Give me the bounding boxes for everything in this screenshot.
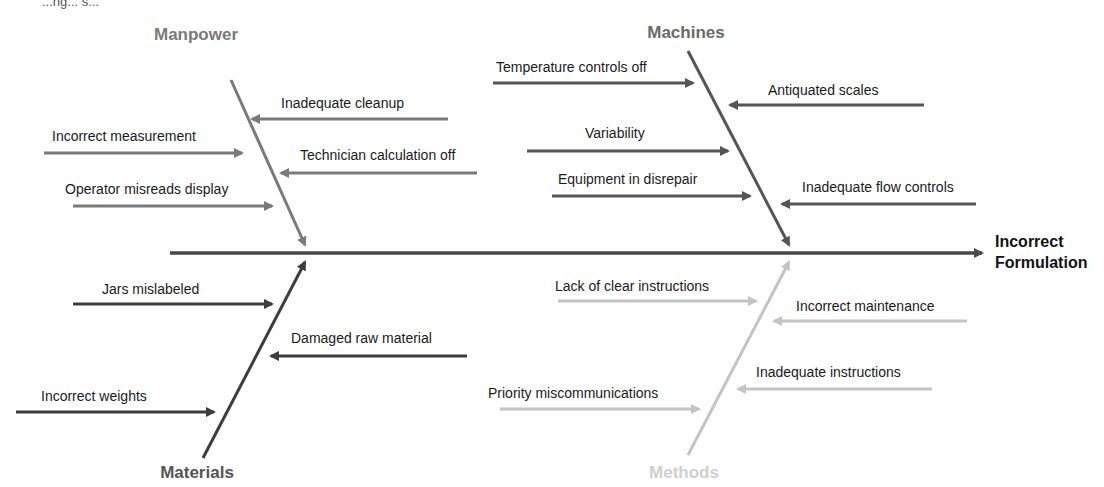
cause-operator-misreads-display: Operator misreads display — [65, 181, 272, 206]
svg-text:Incorrect weights: Incorrect weights — [41, 388, 147, 404]
svg-text:Jars mislabeled: Jars mislabeled — [102, 281, 199, 297]
svg-text:Variability: Variability — [585, 125, 645, 141]
cause-technician-calculation-off: Technician calculation off — [281, 147, 477, 173]
svg-text:Incorrect maintenance: Incorrect maintenance — [796, 298, 935, 314]
cause-inadequate-instructions: Inadequate instructions — [738, 364, 932, 389]
category-label-machines: Machines — [647, 23, 724, 42]
figure-caption: ...ng... s... — [42, 0, 99, 9]
cause-equipment-in-disrepair: Equipment in disrepair — [552, 171, 750, 196]
svg-text:Temperature controls off: Temperature controls off — [496, 59, 647, 75]
effect-label: Incorrect Formulation — [995, 233, 1087, 271]
category-methods: Methods Lack of clear instructions Incor… — [488, 262, 967, 482]
cause-incorrect-measurement: Incorrect measurement — [44, 128, 242, 153]
effect-line-1: Incorrect — [995, 233, 1064, 250]
category-label-methods: Methods — [649, 463, 719, 482]
cause-priority-miscommunications: Priority miscommunications — [488, 385, 699, 409]
cause-lack-of-clear-instructions: Lack of clear instructions — [555, 278, 756, 301]
svg-text:Incorrect measurement: Incorrect measurement — [52, 128, 196, 144]
category-label-manpower: Manpower — [154, 25, 238, 44]
svg-text:Inadequate flow controls: Inadequate flow controls — [802, 179, 954, 195]
svg-text:Equipment in disrepair: Equipment in disrepair — [558, 171, 698, 187]
svg-text:Antiquated scales: Antiquated scales — [768, 82, 879, 98]
cause-antiquated-scales: Antiquated scales — [730, 82, 924, 105]
cause-inadequate-flow-controls: Inadequate flow controls — [782, 179, 976, 204]
svg-text:Damaged raw material: Damaged raw material — [291, 330, 432, 346]
cause-damaged-raw-material: Damaged raw material — [271, 330, 467, 356]
effect-line-2: Formulation — [995, 254, 1087, 271]
bone-machines-arrow-icon — [688, 51, 789, 245]
svg-text:Lack of clear instructions: Lack of clear instructions — [555, 278, 709, 294]
svg-text:Inadequate instructions: Inadequate instructions — [756, 364, 901, 380]
cause-variability: Variability — [527, 125, 728, 151]
svg-text:Operator misreads display: Operator misreads display — [65, 181, 228, 197]
cause-incorrect-weights: Incorrect weights — [16, 388, 214, 412]
cause-inadequate-cleanup: Inadequate cleanup — [252, 95, 448, 119]
bone-materials-arrow-icon — [203, 262, 305, 458]
cause-temperature-controls-off: Temperature controls off — [493, 59, 693, 83]
cause-jars-mislabeled: Jars mislabeled — [73, 281, 272, 304]
fishbone-diagram: ...ng... s... Incorrect Formulation Manp… — [0, 0, 1104, 487]
category-machines: Machines Temperature controls off Antiqu… — [493, 23, 976, 245]
category-label-materials: Materials — [160, 463, 234, 482]
svg-text:Priority miscommunications: Priority miscommunications — [488, 385, 658, 401]
category-materials: Materials Jars mislabeled Damaged raw ma… — [16, 262, 467, 482]
category-manpower: Manpower Inadequate cleanup Incorrect me… — [44, 25, 477, 245]
cause-incorrect-maintenance: Incorrect maintenance — [774, 298, 967, 321]
svg-text:Technician calculation off: Technician calculation off — [300, 147, 456, 163]
svg-text:Inadequate cleanup: Inadequate cleanup — [281, 95, 404, 111]
